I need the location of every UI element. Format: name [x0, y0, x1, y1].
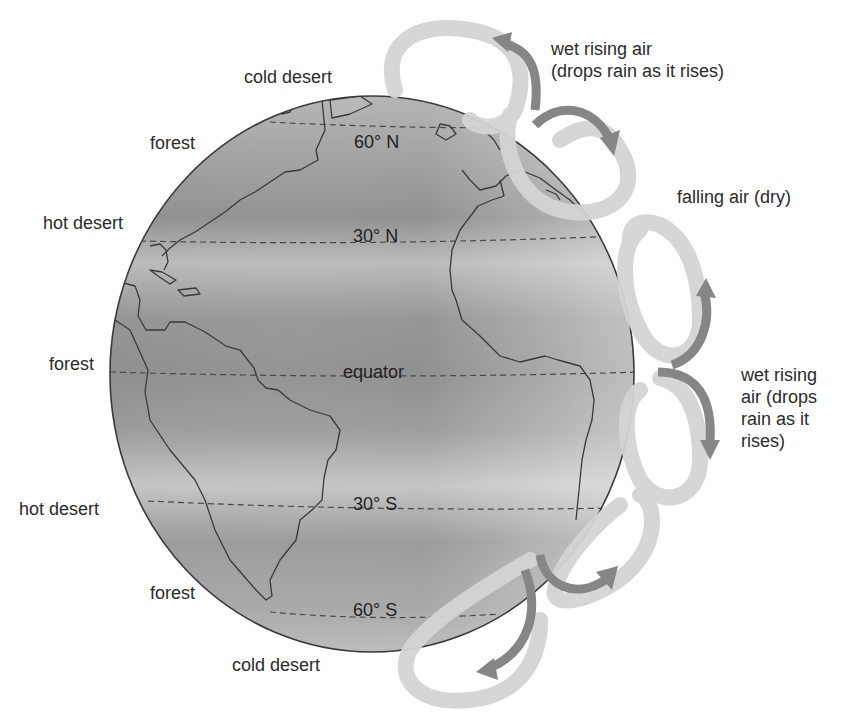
climate-label-cold-desert-south: cold desert: [232, 654, 320, 676]
lat-30n-label: 30° N: [353, 226, 398, 246]
hadley-cell-north: [625, 222, 700, 355]
climate-label-forest-equator: forest: [49, 353, 94, 375]
lat-60n-label: 60° N: [354, 132, 399, 152]
climate-label-cold-desert-north: cold desert: [244, 66, 332, 88]
hadley-cell-south: [627, 378, 700, 497]
atmospheric-circulation-diagram: 60° N 30° N equator 30° S 60° S cold des…: [0, 0, 848, 726]
lat-60s-label: 60° S: [353, 600, 397, 620]
climate-label-forest-south: forest: [150, 582, 195, 604]
lat-30s-label: 30° S: [353, 494, 397, 514]
climate-label-hot-desert-south: hot desert: [19, 498, 99, 520]
equator-label: equator: [343, 362, 404, 382]
air-label-falling-dry: falling air (dry): [677, 186, 791, 208]
air-label-wet-rising-north: wet rising air (drops rain as it rises): [551, 38, 724, 82]
climate-label-hot-desert-north: hot desert: [43, 212, 123, 234]
air-label-wet-rising-equator: wet rising air (drops rain as it rises): [741, 364, 817, 452]
climate-label-forest-north: forest: [150, 132, 195, 154]
